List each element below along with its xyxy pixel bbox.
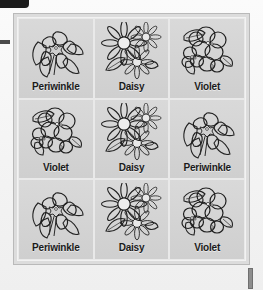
daisy-icon: [100, 183, 162, 241]
left-edge-dash-icon: [0, 40, 10, 44]
flower-cell-label: Daisy: [119, 242, 145, 253]
flower-cell-label: Violet: [43, 162, 69, 173]
flower-cell[interactable]: Periwinkle: [19, 180, 93, 259]
flower-cell-label: Periwinkle: [32, 81, 79, 92]
flower-cell[interactable]: Violet: [170, 19, 244, 98]
periwinkle-icon: [25, 183, 87, 241]
daisy-icon: [100, 103, 162, 161]
flower-cell[interactable]: Violet: [170, 180, 244, 259]
top-left-black-tab-icon: [0, 0, 29, 8]
periwinkle-icon: [176, 103, 238, 161]
violet-icon: [176, 22, 238, 80]
violet-icon: [176, 183, 238, 241]
daisy-icon: [100, 22, 162, 80]
violet-icon: [25, 103, 87, 161]
bottom-right-scroll-mark-icon: [248, 268, 253, 289]
flower-cell[interactable]: Daisy: [95, 100, 169, 179]
flower-cell-label: Daisy: [119, 81, 145, 92]
flower-cell-label: Violet: [194, 242, 220, 253]
flower-cell-label: Periwinkle: [32, 242, 79, 253]
periwinkle-icon: [25, 22, 87, 80]
flower-cell[interactable]: Violet: [19, 100, 93, 179]
flower-cell[interactable]: Periwinkle: [19, 19, 93, 98]
flower-cell-label: Violet: [194, 81, 220, 92]
flower-cell-label: Periwinkle: [183, 162, 230, 173]
flower-cell[interactable]: Daisy: [95, 180, 169, 259]
flower-grid: PeriwinkleDaisyVioletVioletDaisyPeriwink…: [17, 17, 246, 261]
flower-grid-panel: PeriwinkleDaisyVioletVioletDaisyPeriwink…: [13, 13, 250, 265]
flower-cell[interactable]: Periwinkle: [170, 100, 244, 179]
flower-cell[interactable]: Daisy: [95, 19, 169, 98]
flower-cell-label: Daisy: [119, 162, 145, 173]
